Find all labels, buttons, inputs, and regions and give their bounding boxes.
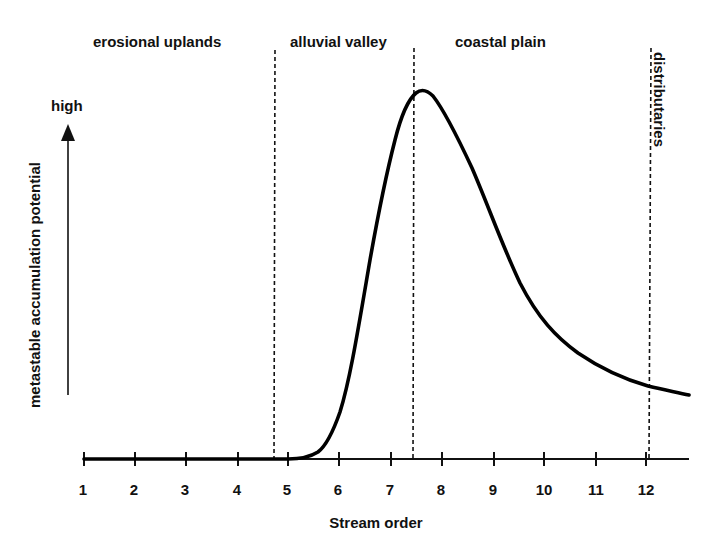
accumulation-curve — [84, 91, 689, 459]
region-label-distributaries: distributaries — [651, 52, 668, 147]
x-axis-label: Stream order — [329, 514, 423, 531]
x-tick-label: 7 — [386, 481, 394, 498]
x-tick-label: 3 — [181, 481, 189, 498]
x-axis: 1 2 3 4 5 6 7 8 9 10 11 12 Stream order — [79, 452, 689, 531]
region-label-erosional-uplands: erosional uplands — [93, 33, 221, 50]
x-tick-label: 12 — [638, 481, 655, 498]
stream-order-diagram: erosional uplands alluvial valley coasta… — [0, 0, 719, 547]
x-tick-label: 5 — [283, 481, 291, 498]
boundary-uplands-valley — [274, 50, 275, 460]
boundary-coastal-distributaries — [649, 48, 651, 460]
x-tick-label: 1 — [79, 481, 87, 498]
boundary-valley-coastal — [413, 48, 414, 460]
region-label-coastal-plain: coastal plain — [455, 33, 546, 50]
x-tick-label: 10 — [536, 481, 553, 498]
x-tick-label: 11 — [588, 481, 604, 498]
x-tick-label: 6 — [334, 481, 342, 498]
y-axis-label: metastable accumulation potential — [26, 162, 43, 408]
x-tick-label: 2 — [130, 481, 138, 498]
region-label-alluvial-valley: alluvial valley — [290, 33, 387, 50]
x-tick-label: 8 — [437, 481, 445, 498]
y-axis-arrow-icon — [61, 124, 75, 395]
x-tick-label: 9 — [489, 481, 497, 498]
x-tick-label: 4 — [233, 481, 242, 498]
y-high-label: high — [51, 97, 83, 114]
region-boundaries — [274, 48, 651, 460]
